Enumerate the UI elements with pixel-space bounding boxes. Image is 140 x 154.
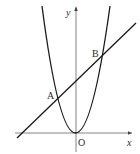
straight-line [17, 23, 136, 138]
y-axis-label: y [65, 7, 71, 18]
origin-label: O [78, 137, 85, 148]
coordinate-diagram: y x O A B [0, 0, 140, 154]
point-a-label: A [47, 90, 55, 101]
x-axis-label: x [126, 137, 132, 148]
point-b-label: B [92, 48, 99, 59]
